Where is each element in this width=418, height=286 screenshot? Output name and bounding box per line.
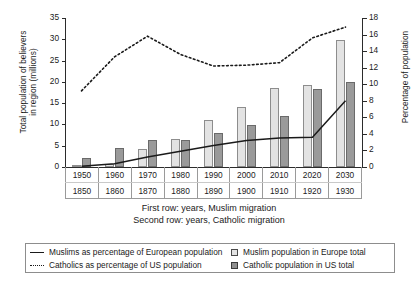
chart-figure: Total population of believers in region … (0, 0, 418, 286)
legend-label-catholic-population: Catholic population in US total (243, 260, 354, 270)
x-axis-label-catholic-year: 1920 (296, 183, 329, 199)
cut-off-caption-text (0, 277, 418, 286)
y-axis-left-tick-label: 10 (43, 119, 59, 128)
y-axis-right-tick-mark (363, 101, 367, 102)
y-axis-left-tick-label: 5 (43, 141, 59, 150)
y-axis-right-tick-label: 12 (369, 63, 385, 72)
x-axis-label-muslim-year: 2000 (230, 167, 263, 183)
y-axis-right-tick-mark (363, 51, 367, 52)
legend-label-muslims-percentage: Muslims as percentage of European popula… (49, 247, 222, 257)
y-axis-left-tick-label: 35 (43, 13, 59, 22)
y-axis-right-tick-label: 0 (369, 162, 385, 171)
x-axis-row-catholic-years: 185018601870188018901900191019201930 (66, 183, 362, 199)
x-axis-label-muslim-year: 1990 (197, 167, 230, 183)
y-axis-right-line (362, 18, 363, 168)
y-axis-right-tick-label: 18 (369, 13, 385, 22)
legend-label-muslim-population: Muslim population in Europe total (243, 247, 366, 257)
legend-item-muslim-population: Muslim population in Europe total (231, 247, 366, 257)
y-axis-left-tick-label: 20 (43, 77, 59, 86)
legend-label-catholics-percentage: Catholics as percentage of US population (49, 260, 202, 270)
x-axis-label-muslim-year: 1980 (164, 167, 197, 183)
legend-item-catholics-percentage: Catholics as percentage of US population (30, 260, 202, 270)
y-axis-left-tick-label: 0 (43, 162, 59, 171)
y-axis-right-title: Percentage of population (400, 2, 410, 152)
y-axis-right-tick-mark (363, 150, 367, 151)
x-axis-label-muslim-year: 2020 (296, 167, 329, 183)
x-axis-label-muslim-year: 2030 (329, 167, 362, 183)
y-axis-left-tick-label: 25 (43, 56, 59, 65)
light-box-swatch-icon (231, 249, 238, 256)
x-axis-caption: First row: years, Muslim migration Secon… (0, 203, 418, 226)
y-axis-left-tick-label: 15 (43, 98, 59, 107)
legend-item-muslims-percentage: Muslims as percentage of European popula… (30, 247, 222, 257)
y-axis-right-tick-label: 16 (369, 30, 385, 39)
chart-legend: Muslims as percentage of European popula… (25, 243, 395, 273)
x-axis-label-catholic-year: 1910 (263, 183, 296, 199)
y-axis-right-tick-mark (363, 35, 367, 36)
dark-box-swatch-icon (231, 262, 238, 269)
x-axis-label-catholic-year: 1930 (329, 183, 362, 199)
legend-row-1: Muslims as percentage of European popula… (26, 245, 394, 259)
x-axis-row-muslim-years: 195019601970198019902000201020202030 (66, 167, 362, 183)
y-axis-left-tick-label: 30 (43, 34, 59, 43)
x-axis-label-catholic-year: 1850 (66, 183, 99, 199)
legend-row-2: Catholics as percentage of US population… (26, 258, 394, 272)
y-axis-right-tick-label: 14 (369, 46, 385, 55)
y-axis-right-tick-label: 4 (369, 129, 385, 138)
y-axis-right-tick-label: 6 (369, 112, 385, 121)
muslims-percentage-line (82, 101, 346, 166)
plot-area (65, 18, 362, 167)
x-axis-caption-line-1: First row: years, Muslim migration (0, 203, 418, 215)
x-axis-label-catholic-year: 1860 (98, 183, 131, 199)
x-axis-label-catholic-year: 1900 (230, 183, 263, 199)
y-axis-right-tick-mark (363, 84, 367, 85)
y-axis-right-tick-label: 2 (369, 145, 385, 154)
x-axis-label-muslim-year: 2010 (263, 167, 296, 183)
solid-line-swatch-icon (30, 252, 44, 253)
x-axis-label-muslim-year: 1970 (131, 167, 164, 183)
line-series-svg (65, 18, 362, 167)
x-axis-label-muslim-year: 1960 (98, 167, 131, 183)
y-axis-right-tick-mark (363, 68, 367, 69)
y-axis-right-tick-mark (363, 18, 367, 19)
x-axis-label-catholic-year: 1880 (164, 183, 197, 199)
y-axis-right-tick-mark (363, 167, 367, 168)
x-axis-caption-line-2: Second row: years, Catholic migration (0, 215, 418, 227)
legend-item-catholic-population: Catholic population in US total (231, 260, 354, 270)
y-axis-right-tick-mark (363, 117, 367, 118)
x-axis-label-muslim-year: 1950 (66, 167, 99, 183)
y-axis-left-title: Total population of believers in region … (18, 7, 38, 157)
catholics-percentage-line (82, 27, 346, 91)
y-axis-right-tick-label: 8 (369, 96, 385, 105)
x-axis-label-catholic-year: 1890 (197, 183, 230, 199)
x-axis-label-catholic-year: 1870 (131, 183, 164, 199)
y-axis-right-tick-label: 10 (369, 79, 385, 88)
x-axis-category-table: 195019601970198019902000201020202030 185… (65, 167, 362, 199)
dotted-line-swatch-icon (30, 265, 44, 266)
y-axis-right-tick-mark (363, 134, 367, 135)
